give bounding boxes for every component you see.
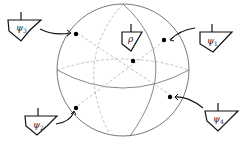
- psi3-symbol: ψ3: [8, 12, 71, 41]
- psi4-symbol: ψ4: [175, 94, 238, 131]
- point-psi1: [162, 38, 166, 42]
- meridian-front: [123, 4, 156, 136]
- arrow-psi3: [40, 29, 70, 34]
- meridian-back: [94, 4, 123, 135]
- point-rho: [131, 59, 135, 63]
- point-psi4: [168, 95, 172, 99]
- rho-label: ρ: [127, 34, 134, 44]
- psi2-symbol: ψ2: [25, 108, 76, 135]
- psi1-symbol: ψ1: [170, 24, 232, 52]
- arrow-psi1: [170, 28, 195, 40]
- bloch-sphere-diagram: ρ ψ3 ψ1 ψ2 ψ4: [0, 0, 246, 143]
- equator-front: [57, 70, 189, 88]
- equator-back: [57, 59, 189, 70]
- rho-symbol: ρ: [122, 24, 142, 51]
- point-psi2: [74, 106, 78, 110]
- arrow-psi4: [175, 97, 203, 108]
- point-psi3: [74, 32, 78, 36]
- sphere-outline: [57, 4, 189, 136]
